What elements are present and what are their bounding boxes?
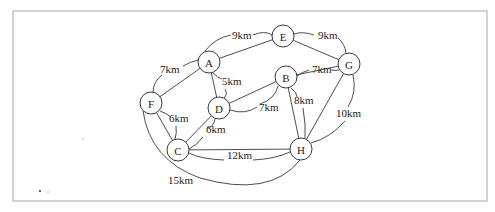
node-label: A [205, 57, 213, 69]
node-layer: AEGBDFCH [140, 25, 360, 161]
speck [39, 190, 41, 192]
edge-B-G-weight-label: 7km [312, 63, 332, 75]
node-E: E [272, 25, 294, 47]
edge-A-E-weight-label: 9km [232, 29, 252, 41]
edge-C-H-weight-label: 12km [227, 149, 253, 161]
node-D: D [208, 97, 230, 119]
node-B: B [275, 66, 297, 88]
edge-F-H-weight-label: 15km [168, 174, 194, 186]
edge-B-H-weight-label: 8km [294, 94, 314, 106]
edge-F-C-weight-label: 6km [169, 112, 189, 124]
node-label: C [174, 145, 181, 157]
node-label: B [282, 72, 289, 84]
edge-layer [143, 36, 349, 185]
node-label: D [215, 103, 223, 115]
node-label: E [280, 31, 287, 43]
node-H: H [290, 138, 312, 160]
speck [83, 139, 84, 140]
node-F: F [140, 92, 162, 114]
node-label: F [148, 98, 154, 110]
speck [48, 192, 49, 193]
node-A: A [198, 51, 220, 73]
node-G: G [338, 53, 360, 75]
node-label: H [297, 144, 305, 156]
node-C: C [167, 139, 189, 161]
edge-A-D-weight-label: 5km [222, 75, 242, 87]
graph-diagram: AEGBDFCH 9km9km7km5km7km7km8km10km6km6km… [0, 0, 495, 212]
edge-G-H-weight-label: 10km [336, 107, 362, 119]
edge-label-layer: 9km9km7km5km7km7km8km10km6km6km12km15km [160, 29, 362, 186]
node-label: G [345, 59, 353, 71]
scan-specks [39, 139, 84, 193]
edge-E-G-weight-label: 9km [318, 29, 338, 41]
edge-B-D-weight-label: 7km [259, 101, 279, 113]
edge-D-C-weight-label: 6km [206, 123, 226, 135]
edge-A-F-weight-label: 7km [160, 63, 180, 75]
